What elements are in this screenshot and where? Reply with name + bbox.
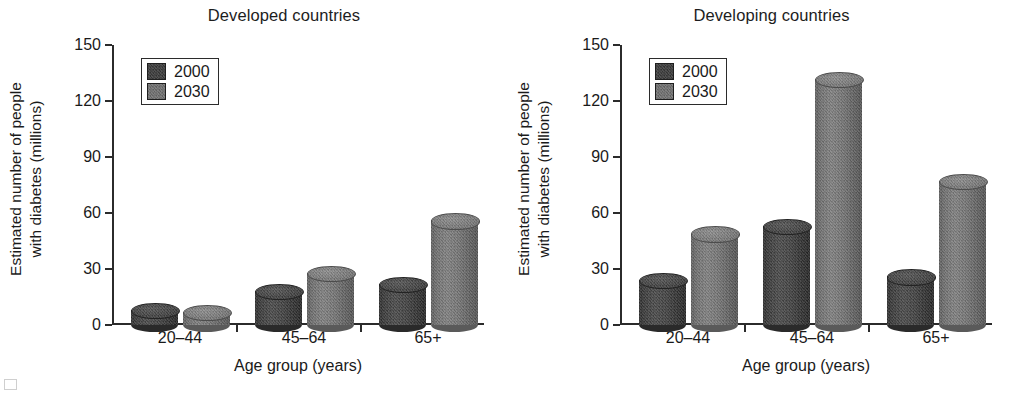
cylinder-cap-texture [184,306,231,320]
swatch-2030-icon [655,83,674,100]
page-caption-strip [0,377,1017,394]
y-axis-tick-label: 0 [600,317,609,333]
swatch-2030-icon [147,83,166,100]
cylinder-cap [887,269,936,285]
cylinder-body [763,226,810,325]
legend-item-2030[interactable]: 2030 [147,83,210,100]
swatch-2000-icon [655,63,674,80]
cylinder-cap [379,277,428,293]
cylinder-cap [691,226,740,242]
y-axis-tick [613,156,620,158]
legend-label: 2000 [682,64,718,80]
y-axis-tick-label: 60 [591,205,609,221]
x-axis-tick [868,325,870,332]
y-axis-tick [105,100,112,102]
bar-developed-4564-2030 [307,266,354,325]
cylinder-cap-texture [764,220,811,234]
x-axis-tick [360,325,362,332]
cylinder-cap-texture [132,304,179,318]
y-axis-tick [105,44,112,46]
x-axis-tick-label: 65+ [922,329,949,347]
y-axis-line [620,45,622,325]
cylinder-cap-texture [432,214,479,228]
y-axis-tick [613,324,620,326]
panel-developing-countries: Developing countries Estimated number of… [508,0,1017,375]
cylinder-cap [431,213,480,229]
legend-label: 2030 [174,84,210,100]
x-axis-title-developing: Age group (years) [620,357,992,375]
cylinder-cap-texture [256,285,303,299]
cylinder-cap [307,266,356,282]
cylinder-texture [763,226,810,325]
plot-area-developed: 030609012015020–4445–6465+20002030 [112,45,484,325]
x-axis-title-developed: Age group (years) [112,357,484,375]
bar-developed-65+-2000 [379,277,426,325]
y-axis-tick-label: 120 [582,93,609,109]
y-axis-tick-label: 120 [74,93,101,109]
legend-item-2000[interactable]: 2000 [147,63,210,80]
figure-two-panel-bar-chart: Developed countries Estimated number of … [0,0,1017,394]
y-axis-tick-label: 90 [591,149,609,165]
cylinder-texture [691,234,738,325]
cylinder-cap-texture [308,267,355,281]
y-axis-tick-label: 0 [92,317,101,333]
cylinder-body [939,181,986,325]
y-axis-tick [613,212,620,214]
y-axis-tick [105,212,112,214]
y-axis-tick-label: 150 [582,37,609,53]
bar-developed-2044-2030 [183,305,230,325]
caption-bullet-icon [4,379,17,390]
y-axis-tick-label: 90 [83,149,101,165]
cylinder-texture [431,220,478,325]
x-axis-tick-label: 45–64 [282,329,327,347]
y-axis-title-line2: with diabetes (millions) [26,101,46,258]
legend-item-2000[interactable]: 2000 [655,63,718,80]
panel-title-developed: Developed countries [0,6,508,25]
legend-item-2030[interactable]: 2030 [655,83,718,100]
y-axis-tick [613,44,620,46]
bar-developed-65+-2030 [431,213,478,325]
cylinder-cap-texture [640,274,687,288]
cylinder-cap-texture [816,73,863,87]
cylinder-cap-texture [940,175,987,189]
y-axis-title-developing: Estimated number of people with diabetes… [512,40,556,318]
x-axis-tick-label: 20–44 [158,329,203,347]
bar-developing-4564-2000 [763,219,810,325]
bar-developed-4564-2000 [255,284,302,325]
bar-developing-65+-2000 [887,269,934,325]
swatch-2000-icon [147,63,166,80]
cylinder-texture [815,79,862,325]
y-axis-tick [105,156,112,158]
y-axis-tick [613,268,620,270]
swatch-texture [148,84,165,99]
cylinder-cap-texture [380,278,427,292]
cylinder-cap [815,72,864,88]
x-axis-tick-label: 45–64 [790,329,835,347]
cylinder-cap [183,305,232,321]
x-axis-tick-label: 65+ [414,329,441,347]
cylinder-cap [131,303,180,319]
swatch-texture [148,64,165,79]
cylinder-body [691,234,738,325]
y-axis-tick [105,268,112,270]
y-axis-tick-label: 60 [83,205,101,221]
cylinder-cap-texture [692,227,739,241]
y-axis-line [112,45,114,325]
bar-developing-65+-2030 [939,174,986,325]
cylinder-cap [763,219,812,235]
x-axis-tick [744,325,746,332]
x-axis-tick-label: 20–44 [666,329,711,347]
cylinder-body [431,220,478,325]
panel-title-developing: Developing countries [508,6,1017,25]
cylinder-cap [639,273,688,289]
y-axis-title-line2: with diabetes (millions) [534,101,554,258]
bar-developing-2044-2030 [691,226,738,325]
y-axis-tick-label: 150 [74,37,101,53]
y-axis-title-line1: Estimated number of people [6,82,26,276]
y-axis-tick [105,324,112,326]
y-axis-tick [613,100,620,102]
legend-developed: 20002030 [141,58,219,105]
y-axis-tick-label: 30 [83,261,101,277]
swatch-texture [656,64,673,79]
panel-developed-countries: Developed countries Estimated number of … [0,0,508,375]
